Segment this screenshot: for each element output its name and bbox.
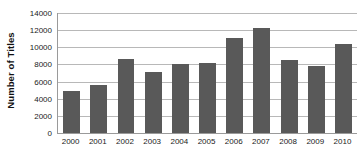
bar <box>90 85 107 133</box>
bar-slot <box>112 13 139 133</box>
bar <box>199 63 216 133</box>
x-axis-tick-label: 2000 <box>57 136 84 156</box>
y-axis-tick-label: 4000 <box>34 94 52 103</box>
bar-slot <box>140 13 167 133</box>
x-axis-tick-label: 2002 <box>111 136 138 156</box>
bar <box>226 38 243 133</box>
bar-slot <box>303 13 330 133</box>
x-axis-tick-label: 2001 <box>84 136 111 156</box>
x-axis-tick-label: 2006 <box>220 136 247 156</box>
bar-series <box>58 13 357 133</box>
bar-slot <box>276 13 303 133</box>
y-axis-tick-label: 14000 <box>30 9 52 18</box>
bar <box>335 44 352 133</box>
x-axis-tick-label: 2003 <box>139 136 166 156</box>
x-axis-tick-label: 2008 <box>275 136 302 156</box>
y-axis-tick-label: 0 <box>48 129 52 138</box>
x-axis-tick-label: 2010 <box>329 136 356 156</box>
bar <box>281 60 298 133</box>
y-axis-tick-label: 8000 <box>34 60 52 69</box>
bar <box>253 28 270 133</box>
bar <box>145 72 162 133</box>
x-axis-tick-labels: 2000200120022003200420052006200720082009… <box>57 136 356 156</box>
bar <box>63 91 80 133</box>
x-axis-tick-label: 2007 <box>247 136 274 156</box>
bar-slot <box>221 13 248 133</box>
x-axis-tick-label: 2004 <box>166 136 193 156</box>
bar <box>172 64 189 133</box>
y-axis-tick-label: 6000 <box>34 77 52 86</box>
plot-area <box>57 13 357 134</box>
bar-slot <box>167 13 194 133</box>
y-axis-title: Number of Titles <box>0 0 20 140</box>
bar-slot <box>85 13 112 133</box>
bar <box>308 66 325 133</box>
y-axis-tick-label: 12000 <box>30 26 52 35</box>
x-axis-tick-label: 2009 <box>302 136 329 156</box>
bar <box>118 59 135 133</box>
bar-slot <box>330 13 357 133</box>
x-axis-tick-label: 2005 <box>193 136 220 156</box>
y-axis-tick-label: 10000 <box>30 43 52 52</box>
y-axis-tick-label: 2000 <box>34 111 52 120</box>
y-axis-tick-labels: 02000400060008000100001200014000 <box>18 0 54 160</box>
bar-slot <box>248 13 275 133</box>
bar-chart: Number of Titles 02000400060008000100001… <box>0 0 364 160</box>
y-axis-title-label: Number of Titles <box>5 32 16 108</box>
bar-slot <box>194 13 221 133</box>
bar-slot <box>58 13 85 133</box>
